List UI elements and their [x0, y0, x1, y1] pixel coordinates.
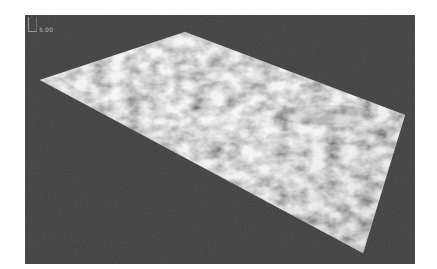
scale-label: 5.00 [39, 26, 53, 33]
3d-viewport[interactable]: 5.00 [25, 15, 415, 264]
terrain-render [25, 15, 415, 264]
axis-bracket-icon [28, 17, 37, 32]
